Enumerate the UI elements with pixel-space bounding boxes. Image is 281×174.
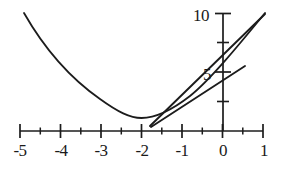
graph-figure: -5 -4 -3 -2 -1 0 1 10 5 [0, 0, 281, 174]
x-tick-label-1: 1 [260, 142, 268, 159]
x-tick-label--2: -2 [135, 142, 148, 159]
y-tick-label-5: 5 [203, 66, 211, 83]
secant-line-shallower [151, 66, 245, 127]
x-tick-label--4: -4 [54, 142, 67, 159]
x-tick-label--1: -1 [175, 142, 188, 159]
y-tick-label-10: 10 [193, 7, 209, 24]
x-tick-label--3: -3 [94, 142, 107, 159]
x-tick-label--5: -5 [13, 142, 26, 159]
x-tick-label-0: 0 [219, 142, 227, 159]
